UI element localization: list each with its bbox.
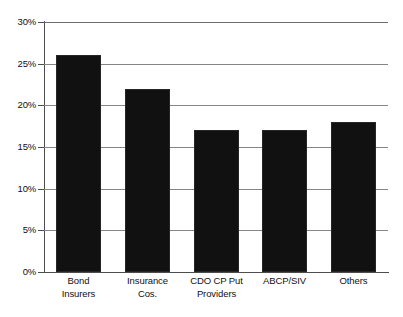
bar <box>262 130 307 272</box>
y-tick-label: 30% <box>2 17 36 27</box>
bar <box>194 130 239 272</box>
bar-chart: 30% 25% 20% 15% 10% 5% 0% BondInsurersIn… <box>0 0 403 317</box>
x-tick-label: Others <box>313 275 394 288</box>
bar <box>125 89 170 272</box>
y-tick-label: 0% <box>2 267 36 277</box>
y-tick-label: 5% <box>2 225 36 235</box>
gridline <box>44 22 388 23</box>
y-tick-label: 20% <box>2 100 36 110</box>
y-tick-label: 15% <box>2 142 36 152</box>
plot-area <box>44 22 388 272</box>
bar <box>56 55 101 272</box>
y-tick-label: 25% <box>2 59 36 69</box>
y-axis-labels: 30% 25% 20% 15% 10% 5% 0% <box>0 0 36 317</box>
y-tick-label: 10% <box>2 184 36 194</box>
x-axis-labels: BondInsurersInsuranceCos.CDO CP PutProvi… <box>44 275 388 317</box>
bar <box>331 122 376 272</box>
x-axis-line <box>44 272 389 273</box>
